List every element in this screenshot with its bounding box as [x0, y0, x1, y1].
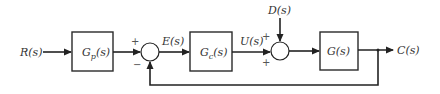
sum2-bottom-plus-sign: +	[262, 57, 270, 68]
control-signal-label: U(s)	[240, 35, 264, 48]
output-signal-label: C(s)	[397, 44, 420, 57]
error-signal-label: E(s)	[161, 35, 184, 48]
sum2-top-plus-sign: +	[262, 31, 270, 42]
sum1-plus-sign: +	[131, 36, 139, 47]
block-diagram: R(s) Gp(s) + − E(s) Gc(s) U(s) + + D(s) …	[0, 0, 440, 94]
prefilter-label: Gp(s)	[82, 46, 110, 61]
plant-label: G(s)	[327, 45, 350, 58]
summing-junction-2	[271, 42, 289, 60]
input-signal-label: R(s)	[19, 46, 43, 59]
summing-junction-1	[141, 43, 159, 61]
controller-label: Gc(s)	[200, 46, 228, 61]
disturbance-signal-label: D(s)	[267, 4, 291, 17]
sum1-minus-sign: −	[133, 59, 141, 70]
branch-point	[377, 49, 380, 52]
